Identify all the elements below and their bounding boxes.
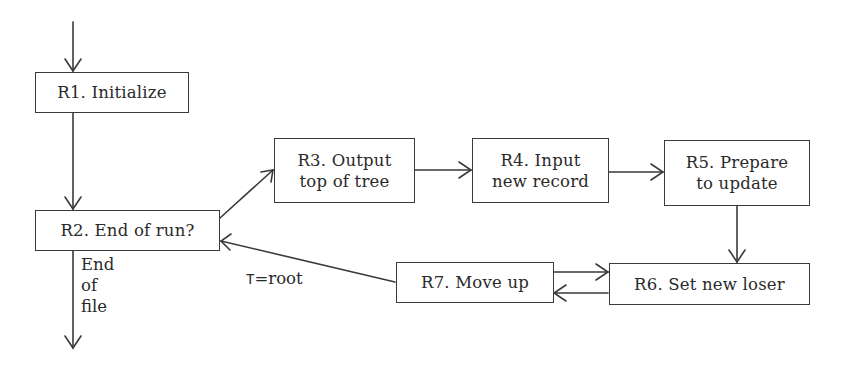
node-r2-end-of-run: R2. End of run?: [35, 210, 220, 251]
node-r4-input-new-record: R4. Input new record: [472, 138, 609, 203]
arrow-r1-to-r2: [65, 113, 81, 209]
node-r1-initialize: R1. Initialize: [35, 72, 189, 113]
node-r5-label-line1: R5. Prepare: [686, 152, 788, 173]
edge-label-equals-sign: =: [254, 269, 268, 288]
node-r6-set-new-loser: R6. Set new loser: [609, 263, 810, 305]
node-r7-label: R7. Move up: [421, 272, 529, 293]
arrow-r6-to-r7: [554, 285, 608, 301]
arrow-r4-to-r5: [609, 164, 663, 180]
arrow-r5-to-r6: [729, 206, 745, 262]
node-r7-move-up: R7. Move up: [396, 262, 554, 303]
node-r6-label: R6. Set new loser: [634, 274, 785, 295]
node-r1-label: R1. Initialize: [57, 82, 166, 103]
node-r3-label-line2: top of tree: [300, 171, 390, 192]
arrow-start-to-r1: [65, 22, 81, 71]
edge-label-t-equals-root: T=root: [246, 268, 303, 290]
arrow-r2-to-r3: [220, 170, 273, 218]
node-r4-label-line2: new record: [492, 171, 589, 192]
node-r5-prepare-to-update: R5. Prepare to update: [664, 140, 810, 206]
edge-label-end-of-file-line3: file: [81, 296, 114, 317]
edge-label-end-of-file-line2: of: [81, 275, 114, 296]
arrow-r3-to-r4: [415, 162, 471, 178]
node-r5-label-line2: to update: [696, 173, 778, 194]
edge-label-end-of-file: End of file: [81, 254, 114, 317]
node-r3-output-top-of-tree: R3. Output top of tree: [274, 138, 415, 203]
arrow-r7-to-r6: [554, 264, 608, 280]
edge-label-end-of-file-line1: End: [81, 254, 114, 275]
arrow-r2-to-exit: [65, 251, 81, 348]
edge-label-root-value: root: [268, 269, 302, 288]
node-r4-label-line1: R4. Input: [500, 150, 580, 171]
node-r2-label: R2. End of run?: [60, 220, 194, 241]
node-r3-label-line1: R3. Output: [297, 150, 391, 171]
